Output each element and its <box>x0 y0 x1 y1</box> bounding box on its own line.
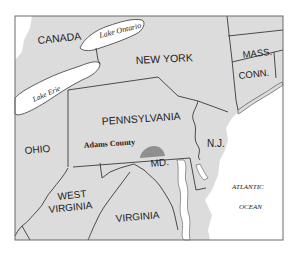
label-atlantic: ATLANTIC <box>231 183 264 191</box>
label-ohio: OHIO <box>24 143 51 156</box>
label-nj: N.J. <box>207 138 225 149</box>
label-md: MD. <box>150 156 169 169</box>
map: CANADA Lake Ontario Lake Erie NEW YORK M… <box>0 0 297 257</box>
label-ocean: OCEAN <box>239 203 262 211</box>
